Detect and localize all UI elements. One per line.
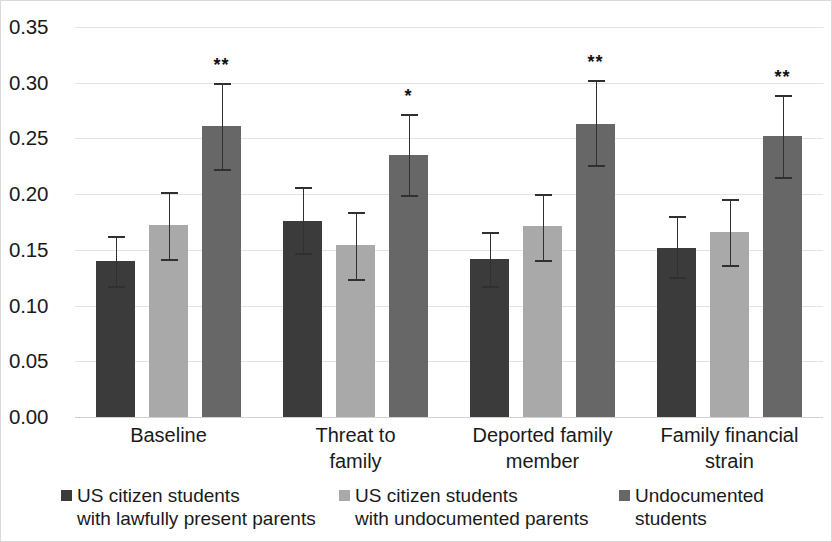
error-bar-line: [490, 232, 491, 285]
plot-area: *******: [75, 27, 823, 417]
error-bar-cap-lower: [295, 253, 312, 255]
significance-marker: *: [389, 87, 429, 105]
error-bar-line: [677, 216, 678, 276]
error-bar-line: [730, 199, 731, 266]
x-category-label: Baseline: [75, 422, 262, 448]
error-bar-cap-lower: [775, 177, 792, 179]
error-bar-cap-upper: [161, 192, 178, 194]
x-category-label-line: Family financial: [636, 422, 823, 448]
error-bar-cap-lower: [348, 279, 365, 281]
bar-group: *: [262, 27, 449, 417]
x-category-label-line: family: [262, 448, 449, 474]
error-bar-cap-lower: [535, 260, 552, 262]
error-bar-line: [169, 192, 170, 259]
x-category-label-line: member: [449, 448, 636, 474]
error-bar-cap-lower: [588, 165, 605, 167]
y-axis-tick-labels: 0.350.300.250.200.150.100.050.00: [9, 27, 67, 417]
y-tick-label: 0.25: [9, 128, 67, 149]
bar-group: **: [636, 27, 823, 417]
legend-swatch-icon: [619, 490, 630, 501]
error-bar-line: [543, 194, 544, 260]
error-bar-line: [783, 95, 784, 177]
chart-legend: US citizen students with lawfully presen…: [1, 484, 832, 540]
x-axis-category-labels: BaselineThreat tofamilyDeported familyme…: [75, 422, 823, 480]
error-bar-cap-lower: [108, 286, 125, 288]
legend-item[interactable]: US citizen students with undocumented pa…: [339, 484, 588, 530]
x-category-label-line: Threat to: [262, 422, 449, 448]
y-tick-label: 0.35: [9, 17, 67, 38]
legend-item[interactable]: Undocumented students: [619, 484, 764, 530]
error-bar-cap-upper: [669, 216, 686, 218]
error-bar-cap-upper: [295, 187, 312, 189]
error-bar-cap-upper: [588, 80, 605, 82]
y-tick-label: 0.15: [9, 240, 67, 261]
legend-swatch-icon: [61, 490, 72, 501]
error-bar-cap-upper: [535, 194, 552, 196]
error-bar-cap-upper: [214, 83, 231, 85]
bar[interactable]: [576, 124, 615, 417]
y-tick-label: 0.30: [9, 73, 67, 94]
gridline: [75, 417, 823, 418]
legend-label: Undocumented students: [635, 484, 764, 530]
error-bar-cap-lower: [482, 286, 499, 288]
legend-item[interactable]: US citizen students with lawfully presen…: [61, 484, 316, 530]
x-category-label: Threat tofamily: [262, 422, 449, 474]
x-category-label-line: strain: [636, 448, 823, 474]
legend-swatch-icon: [339, 490, 350, 501]
y-tick-label: 0.10: [9, 296, 67, 317]
significance-marker: **: [763, 68, 803, 86]
error-bar-cap-lower: [722, 265, 739, 267]
error-bar-cap-upper: [348, 212, 365, 214]
error-bar-cap-lower: [161, 259, 178, 261]
bar-group: **: [449, 27, 636, 417]
legend-label: US citizen students with undocumented pa…: [355, 484, 588, 530]
error-bar-cap-upper: [722, 199, 739, 201]
error-bar-cap-upper: [401, 114, 418, 116]
error-bar-line: [596, 80, 597, 165]
error-bar-line: [116, 236, 117, 285]
error-bar-line: [356, 212, 357, 279]
bar-chart-figure: 0.350.300.250.200.150.100.050.00 *******…: [0, 0, 832, 542]
error-bar-cap-upper: [482, 232, 499, 234]
x-category-label: Family financialstrain: [636, 422, 823, 474]
error-bar-line: [409, 114, 410, 195]
error-bar-line: [303, 187, 304, 253]
error-bar-line: [222, 83, 223, 169]
y-tick-label: 0.05: [9, 351, 67, 372]
error-bar-cap-lower: [401, 195, 418, 197]
error-bar-cap-upper: [108, 236, 125, 238]
x-category-label-line: Baseline: [75, 422, 262, 448]
significance-marker: **: [576, 53, 616, 71]
legend-label: US citizen students with lawfully presen…: [77, 484, 316, 530]
y-tick-label: 0.20: [9, 184, 67, 205]
significance-marker: **: [202, 56, 242, 74]
error-bar-cap-lower: [669, 277, 686, 279]
bar-group: **: [75, 27, 262, 417]
x-category-label: Deported familymember: [449, 422, 636, 474]
x-category-label-line: Deported family: [449, 422, 636, 448]
error-bar-cap-lower: [214, 169, 231, 171]
error-bar-cap-upper: [775, 95, 792, 97]
y-tick-label: 0.00: [9, 407, 67, 428]
